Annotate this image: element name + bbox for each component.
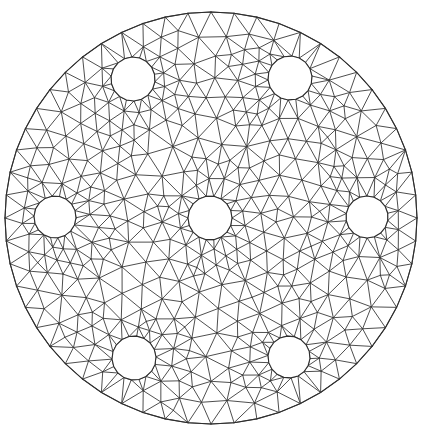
hole-center [188, 196, 232, 239]
mesh-canvas [0, 0, 421, 437]
hole-top-left [111, 57, 155, 101]
hole-right [346, 196, 387, 238]
hole-bottom-right [268, 336, 310, 378]
hole-bottom-left [112, 336, 156, 380]
hole-left [34, 196, 76, 238]
hole-top-right [268, 56, 312, 100]
mesh-figure [0, 0, 421, 437]
